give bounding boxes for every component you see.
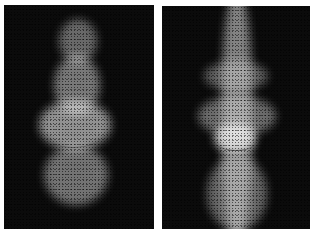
left-photo-panel (4, 5, 154, 229)
grain-overlay (162, 6, 310, 229)
right-photo-panel (162, 6, 310, 229)
grain-overlay (4, 5, 154, 229)
